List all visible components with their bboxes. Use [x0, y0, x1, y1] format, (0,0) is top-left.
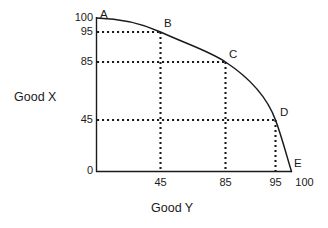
y-tick-label-0: 0 — [60, 165, 93, 176]
chart-canvas — [0, 0, 328, 228]
point-label-d: D — [280, 107, 288, 119]
y-axis-title: Good X — [14, 91, 56, 104]
point-label-c: C — [229, 49, 237, 61]
y-tick-label-85: 85 — [60, 56, 93, 67]
x-tick-label-100: 100 — [288, 177, 321, 188]
point-label-a: A — [100, 9, 108, 21]
point-label-b: B — [164, 18, 172, 30]
y-tick-label-100: 100 — [60, 12, 93, 23]
x-tick-label-95: 95 — [260, 177, 291, 188]
ppf-chart: 100 95 85 45 0 45 85 95 100 A B C D E Go… — [0, 0, 328, 228]
y-tick-label-45: 45 — [60, 114, 93, 125]
x-tick-label-85: 85 — [210, 177, 241, 188]
ppf-curve — [97, 18, 292, 172]
y-tick-label-95: 95 — [60, 26, 93, 37]
point-label-e: E — [294, 158, 302, 170]
x-axis-title: Good Y — [151, 202, 193, 215]
x-tick-label-45: 45 — [145, 177, 176, 188]
